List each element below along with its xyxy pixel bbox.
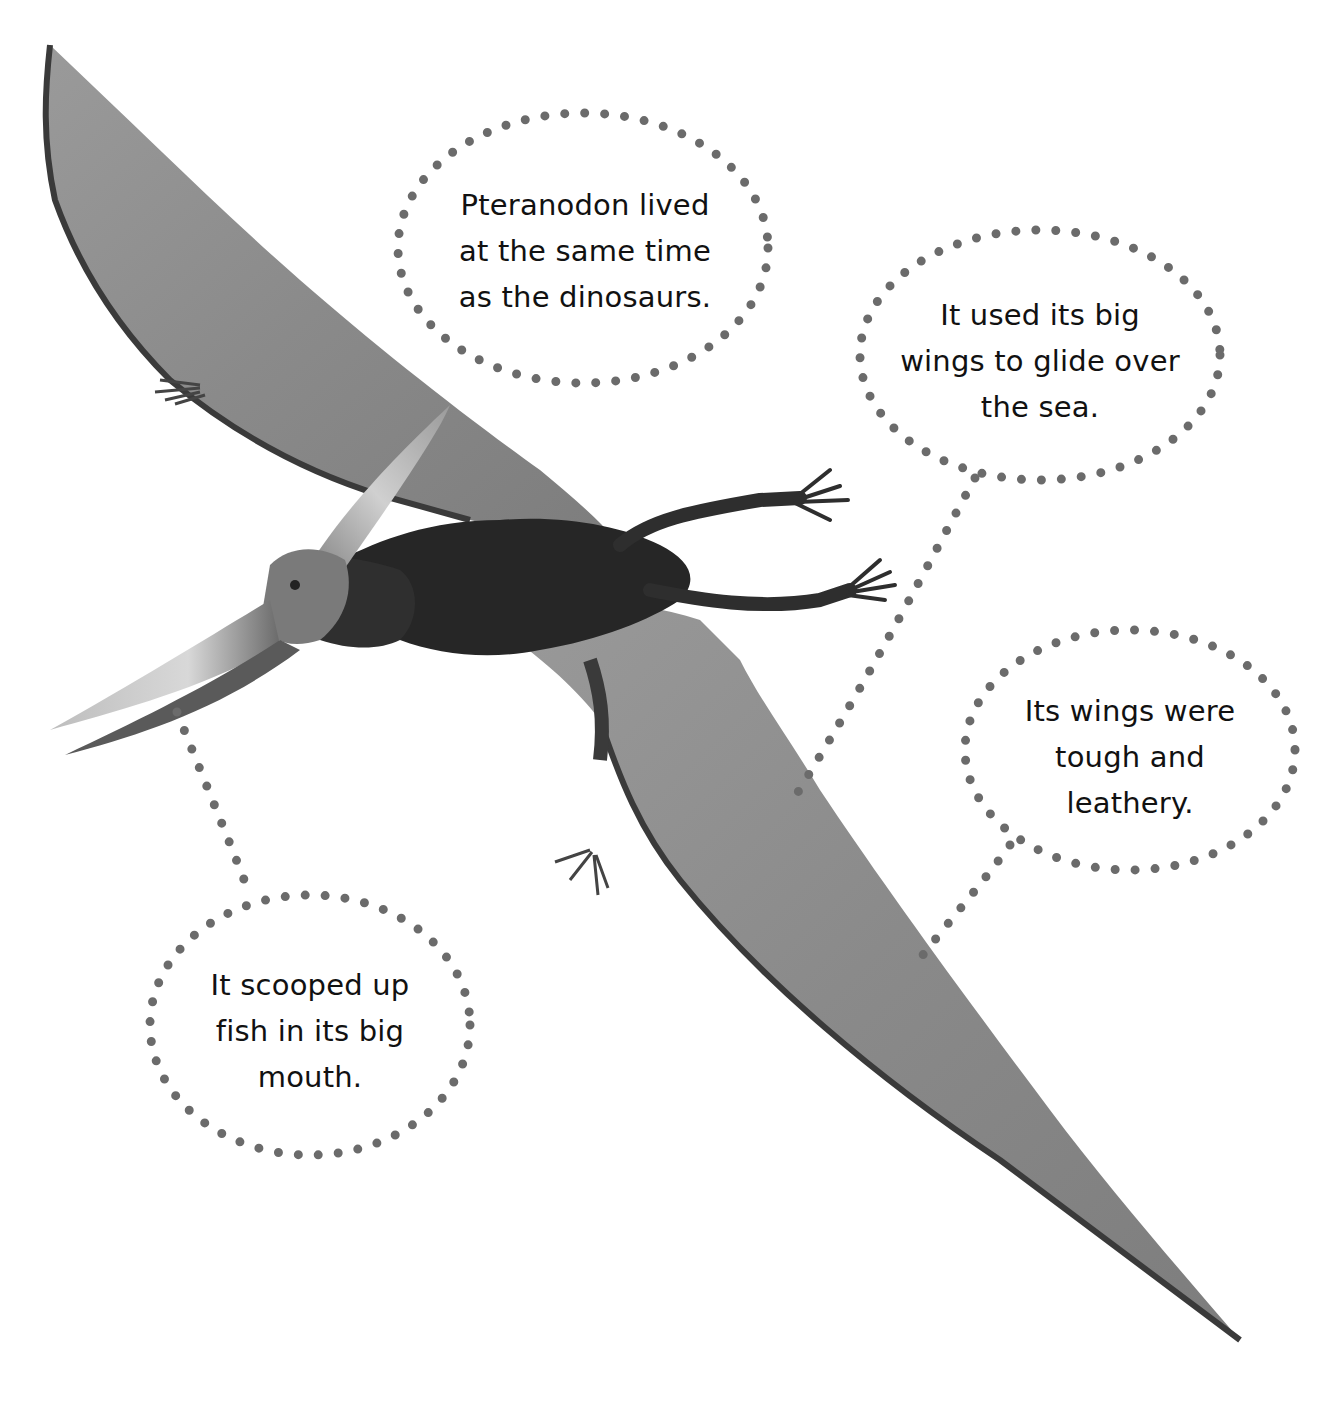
callout-line: fish in its big [170,1008,450,1054]
callout-line: as the dinosaurs. [420,274,750,320]
callout-line: Pteranodon lived [420,182,750,228]
connector-fish [177,712,250,895]
callout-line: leathery. [990,780,1270,826]
callout-line: It scooped up [170,962,450,1008]
callout-leathery: Its wings were tough and leathery. [990,688,1270,826]
page: Pteranodon lived at the same time as the… [0,0,1335,1406]
callout-line: mouth. [170,1054,450,1100]
callout-glide: It used its big wings to glide over the … [880,292,1200,430]
callout-line: It used its big [880,292,1200,338]
callout-line: Its wings were [990,688,1270,734]
callout-lived: Pteranodon lived at the same time as the… [420,182,750,320]
eye-icon [290,580,300,590]
callout-line: wings to glide over [880,338,1200,384]
callout-line: the sea. [880,384,1200,430]
connector-glide [790,478,975,805]
callout-line: tough and [990,734,1270,780]
callout-line: at the same time [420,228,750,274]
callout-fish: It scooped up fish in its big mouth. [170,962,450,1100]
